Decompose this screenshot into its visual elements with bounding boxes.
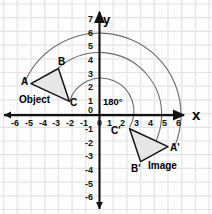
vertex-label-A: A <box>21 77 28 87</box>
y-tick--5: -5 <box>85 180 93 189</box>
x-axis-label: x <box>192 107 200 122</box>
x-tick--2: -2 <box>66 119 74 128</box>
rotation-diagram-figure: y x -6 -5 -4 -3 -2 -1 0 1 2 3 4 5 6 7 6 … <box>0 0 212 214</box>
x-tick--6: -6 <box>11 119 19 128</box>
y-tick-3: 3 <box>88 70 93 79</box>
y-tick--4: -4 <box>85 166 93 175</box>
x-tick-0: 0 <box>97 119 102 128</box>
x-tick--3: -3 <box>52 119 60 128</box>
x-axis-left-arrow <box>4 112 11 119</box>
rotation-angle-label: 180° <box>103 97 123 107</box>
y-tick--3: -3 <box>85 152 93 161</box>
y-tick-6: 6 <box>88 29 93 38</box>
vertex-label-B: B <box>58 57 65 67</box>
y-tick--2: -2 <box>85 139 93 148</box>
object-caption: Object <box>19 95 50 105</box>
vertex-label-A-prime: A' <box>170 143 180 153</box>
y-tick-0: 0 <box>88 106 93 115</box>
vertex-label-B-prime: B' <box>131 164 141 174</box>
x-tick-4: 4 <box>148 119 153 128</box>
y-axis-bottom-arrow <box>96 202 103 209</box>
x-tick-2: 2 <box>120 119 125 128</box>
y-tick-2: 2 <box>88 83 93 92</box>
y-tick-7: 7 <box>88 15 93 24</box>
plot-layer <box>0 0 212 214</box>
x-tick--5: -5 <box>25 119 33 128</box>
image-caption: Image <box>148 161 177 171</box>
x-tick--4: -4 <box>39 119 47 128</box>
y-tick-5: 5 <box>88 42 93 51</box>
y-tick-4: 4 <box>88 56 93 65</box>
y-axis-label: y <box>103 13 110 26</box>
y-tick--6: -6 <box>85 193 93 202</box>
y-tick--1: -1 <box>85 125 93 134</box>
vertex-label-C-prime: C' <box>111 126 121 136</box>
x-tick-5: 5 <box>162 119 167 128</box>
x-tick-6: 6 <box>176 119 181 128</box>
x-tick-3: 3 <box>134 119 139 128</box>
image-triangle <box>130 129 168 162</box>
vertex-label-C: C <box>70 98 77 108</box>
